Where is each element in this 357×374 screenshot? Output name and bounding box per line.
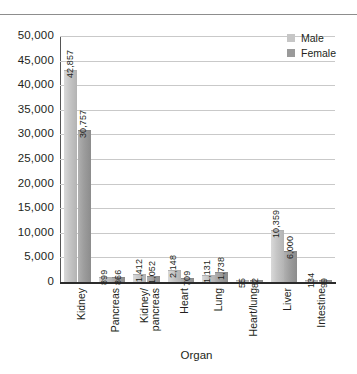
legend-swatch-female-icon [287, 49, 295, 57]
y-axis-tick-label: 30,000 [0, 127, 54, 139]
category-label: Pancreas [110, 288, 121, 332]
x-axis-title: Organ [0, 349, 357, 361]
top-divider-rule [0, 14, 357, 15]
bar-value-label: 1,738 [216, 257, 226, 280]
category-label: Heart [179, 288, 190, 314]
category-label-line: Heart [178, 288, 190, 314]
bar-value-label: 10,359 [271, 210, 281, 238]
category-label: Kidney [76, 288, 87, 320]
bar-value-label: 99 [319, 278, 329, 288]
category-label-line: Lung [212, 288, 224, 311]
x-axis-title-text: Organ [181, 349, 213, 361]
legend-item-male: Male [287, 30, 336, 45]
category-label: Lung [213, 288, 224, 311]
bar-male [64, 70, 77, 282]
category-label-line: Liver [281, 288, 293, 311]
plot-area: 42,85730,7578998661,4121,0522,1487091,13… [60, 36, 335, 282]
y-axis-tick-label: 35,000 [0, 103, 54, 115]
category-label: Kidney/pancreas [139, 288, 161, 331]
chart-legend: Male Female [287, 30, 336, 60]
y-axis-tick-label: 45,000 [0, 54, 54, 66]
y-axis-tick-label: 50,000 [0, 29, 54, 41]
category-label: Heart/lung [248, 288, 259, 336]
bar-value-label: 709 [182, 270, 192, 285]
legend-label-male: Male [301, 32, 324, 44]
bar-value-label: 1,131 [202, 260, 212, 283]
legend-item-female: Female [287, 45, 336, 60]
bar-value-label: 42,857 [65, 50, 75, 78]
bar-value-label: 6,000 [285, 236, 295, 259]
bar-value-label: 1,052 [147, 261, 157, 284]
y-axis-tick-label: 5,000 [0, 250, 54, 262]
category-label-line: Intestine [315, 288, 327, 328]
category-label-line: Kidney [75, 288, 87, 320]
y-axis-tick-label: 20,000 [0, 177, 54, 189]
y-axis-tick-label: 15,000 [0, 201, 54, 213]
y-axis-tick-label: 0 [0, 275, 54, 287]
y-axis-tick-label: 10,000 [0, 226, 54, 238]
bar-female [78, 130, 91, 282]
bar-chart-figure: 05,00010,00015,00020,00025,00030,00035,0… [0, 0, 357, 374]
bar-value-label: 866 [113, 269, 123, 284]
category-label-line: pancreas [150, 288, 161, 331]
y-axis-tick-label: 25,000 [0, 152, 54, 164]
legend-swatch-male-icon [287, 34, 295, 42]
bar-value-label: 1,412 [134, 259, 144, 282]
legend-label-female: Female [301, 47, 336, 59]
bar-value-label: 134 [306, 272, 316, 287]
bar-value-label: 82 [250, 278, 260, 288]
category-label-line: Pancreas [109, 288, 121, 332]
bar-value-label: 899 [99, 269, 109, 284]
bar-value-label: 2,148 [168, 255, 178, 278]
category-label: Intestine [316, 288, 327, 328]
y-axis-tick-label: 40,000 [0, 78, 54, 90]
category-label: Liver [282, 288, 293, 311]
bar-value-label: 30,757 [78, 110, 88, 138]
bar-value-label: 55 [237, 278, 247, 288]
category-label-line: Heart/lung [247, 288, 259, 336]
